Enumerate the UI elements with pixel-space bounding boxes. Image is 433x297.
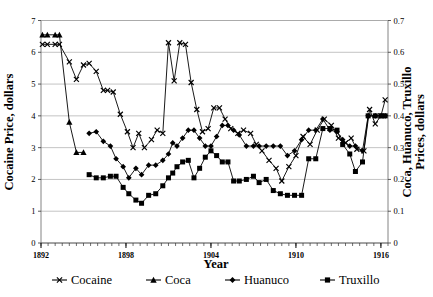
y-tick-label-right: 0.1: [394, 206, 405, 216]
y-tick-label-left: 0: [31, 238, 35, 248]
chart-legend: CocaineCocaHuanucoTruxillo: [52, 273, 380, 287]
y-tick-label-left: 4: [31, 111, 36, 121]
y-tick-label-left: 7: [31, 16, 35, 26]
y-tick-label-left: 6: [31, 47, 35, 57]
line-chart: 0123456700.10.20.30.40.50.60.71892189819…: [0, 0, 433, 297]
legend-item-cocaine[interactable]: Cocaine: [52, 273, 112, 287]
x-tick-label: 1898: [118, 251, 134, 260]
y-axis-title-right-line-2: Prices, dollars: [413, 94, 427, 170]
y-tick-label-right: 0.7: [394, 16, 405, 26]
series-cocaine: [40, 40, 388, 183]
chart-figure: 0123456700.10.20.30.40.50.60.71892189819…: [0, 0, 433, 297]
x-tick-label: 1916: [373, 251, 389, 260]
legend-item-huanuco[interactable]: Huanuco: [225, 273, 289, 287]
y-axis-title-right: Coca, Huanuco, TruxilloPrices, dollars: [400, 67, 427, 198]
x-tick-label: 1892: [33, 251, 49, 260]
x-tick-label: 1910: [288, 251, 304, 260]
x-axis-title: Year: [204, 257, 229, 271]
y-tick-label-left: 5: [31, 79, 35, 89]
legend-label: Huanuco: [244, 273, 289, 287]
series-truxillo: [87, 113, 388, 205]
legend-label: Truxillo: [339, 273, 380, 287]
y-tick-label-left: 3: [31, 143, 35, 153]
series-markers: [40, 40, 388, 183]
legend-label: Cocaine: [71, 273, 112, 287]
legend-item-truxillo[interactable]: Truxillo: [320, 273, 380, 287]
y-tick-label-right: 0.6: [394, 47, 405, 57]
y-axis-title-right-line-1: Coca, Huanuco, Truxillo: [400, 67, 414, 198]
y-tick-label-left: 1: [31, 206, 35, 216]
legend-item-coca[interactable]: Coca: [146, 273, 191, 287]
y-axis-title-left: Cocaine Price, dollars: [2, 73, 16, 190]
gridlines: [41, 21, 388, 212]
y-tick-label-left: 2: [31, 174, 35, 184]
series-markers: [87, 113, 388, 205]
legend-label: Coca: [165, 273, 191, 287]
y-tick-label-right: 0: [394, 238, 398, 248]
